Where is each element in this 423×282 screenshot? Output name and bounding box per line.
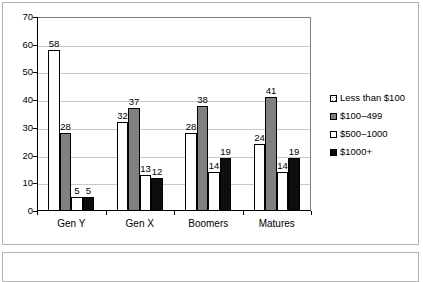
bar[interactable]: [254, 144, 266, 211]
legend-swatch-icon: [330, 149, 337, 156]
y-tick-label: 10: [7, 178, 33, 188]
bar[interactable]: [197, 106, 209, 211]
x-tick-mark: [311, 211, 312, 215]
y-tick-label: 70: [7, 12, 33, 22]
bar[interactable]: [265, 97, 277, 211]
figure-frame: 706050403020100 582855323713122838141924…: [2, 2, 419, 245]
x-tick-mark: [243, 211, 244, 215]
bar[interactable]: [140, 175, 152, 211]
bar-value-label: 24: [254, 133, 266, 143]
x-tick-mark: [37, 211, 38, 215]
bar[interactable]: [151, 178, 163, 211]
bar[interactable]: [48, 50, 60, 211]
y-tick-label: 20: [7, 151, 33, 161]
category-label: Boomers: [174, 218, 243, 229]
y-tick-label: 0: [7, 206, 33, 216]
y-tick-label: 30: [7, 123, 33, 133]
legend-swatch-icon: [330, 95, 337, 102]
bar-value-label: 14: [208, 161, 220, 171]
legend-item[interactable]: Less than $100: [330, 89, 420, 107]
legend-label: $100–499: [340, 111, 382, 121]
y-tick-mark: [33, 72, 37, 73]
legend-swatch-icon: [330, 113, 337, 120]
bar[interactable]: [60, 133, 72, 211]
legend-item[interactable]: $1000+: [330, 143, 420, 161]
y-tick-label: 60: [7, 40, 33, 50]
gridline: [38, 46, 310, 47]
gridline: [38, 73, 310, 74]
bar-value-label: 13: [140, 164, 152, 174]
bar-value-label: 5: [83, 186, 95, 196]
category-label: Gen Y: [37, 218, 106, 229]
bar[interactable]: [185, 133, 197, 211]
legend-label: Less than $100: [340, 93, 405, 103]
bar[interactable]: [71, 197, 83, 211]
bar-chart: 706050403020100 582855323713122838141924…: [3, 3, 420, 244]
y-axis-labels: 706050403020100: [3, 17, 33, 211]
bar-value-label: 37: [128, 97, 140, 107]
bar-value-label: 28: [60, 122, 72, 132]
legend-label: $500–1000: [340, 129, 388, 139]
y-tick-label: 40: [7, 95, 33, 105]
y-tick-mark: [33, 100, 37, 101]
legend-label: $1000+: [340, 147, 372, 157]
bar[interactable]: [117, 122, 129, 211]
bar-value-label: 5: [71, 186, 83, 196]
y-tick-mark: [33, 128, 37, 129]
x-tick-mark: [174, 211, 175, 215]
legend-swatch-icon: [330, 131, 337, 138]
bar[interactable]: [277, 172, 289, 211]
bar-value-label: 19: [288, 147, 300, 157]
bar[interactable]: [220, 158, 232, 211]
category-label: Matures: [243, 218, 312, 229]
category-label: Gen X: [106, 218, 175, 229]
y-tick-mark: [33, 45, 37, 46]
bar-value-label: 41: [265, 86, 277, 96]
bar-value-label: 38: [197, 95, 209, 105]
bar[interactable]: [288, 158, 300, 211]
chart-legend: Less than $100$100–499$500–1000$1000+: [330, 89, 420, 161]
y-tick-label: 50: [7, 67, 33, 77]
legend-item[interactable]: $500–1000: [330, 125, 420, 143]
legend-item[interactable]: $100–499: [330, 107, 420, 125]
y-axis-line: [37, 17, 38, 211]
bar[interactable]: [83, 197, 95, 211]
bar-value-label: 19: [220, 147, 232, 157]
caption-box: [2, 252, 419, 282]
bar-value-label: 28: [185, 122, 197, 132]
x-tick-mark: [106, 211, 107, 215]
y-tick-mark: [33, 17, 37, 18]
bar[interactable]: [128, 108, 140, 211]
bar-value-label: 58: [48, 39, 60, 49]
bar[interactable]: [208, 172, 220, 211]
y-tick-mark: [33, 156, 37, 157]
y-tick-mark: [33, 183, 37, 184]
bar-value-label: 32: [117, 111, 129, 121]
bar-value-label: 12: [151, 167, 163, 177]
bar-value-label: 14: [277, 161, 289, 171]
